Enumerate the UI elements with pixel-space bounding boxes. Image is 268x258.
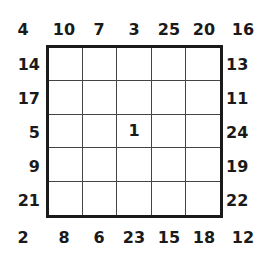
top-clue: 25	[152, 20, 186, 40]
grid-cell[interactable]	[117, 182, 151, 215]
grid-cell[interactable]	[186, 48, 220, 81]
bottom-clue: 23	[117, 228, 151, 248]
corner-clue-top-right: 16	[226, 20, 260, 40]
puzzle-grid: 1	[46, 45, 223, 218]
grid-cell[interactable]	[152, 182, 186, 215]
grid-cell[interactable]	[152, 81, 186, 114]
right-clue: 11	[226, 89, 256, 109]
grid-cell[interactable]	[49, 115, 83, 148]
grid-cell[interactable]	[83, 48, 117, 81]
bottom-clue: 15	[152, 228, 186, 248]
bottom-clue: 8	[47, 228, 81, 248]
corner-clue-bottom-left: 2	[6, 228, 40, 248]
grid-cell-given: 1	[117, 115, 151, 148]
grid-cell[interactable]	[117, 48, 151, 81]
grid-cell[interactable]	[83, 182, 117, 215]
grid-cell[interactable]	[83, 115, 117, 148]
grid-cell[interactable]	[49, 148, 83, 181]
top-clue: 3	[117, 20, 151, 40]
grid-cell[interactable]	[152, 48, 186, 81]
top-clue: 20	[187, 20, 221, 40]
grid-cell[interactable]	[152, 148, 186, 181]
grid-cell[interactable]	[186, 81, 220, 114]
grid-cell[interactable]	[186, 182, 220, 215]
left-clue: 14	[10, 55, 40, 75]
right-clue: 13	[226, 55, 256, 75]
left-clue: 9	[10, 157, 40, 177]
top-clue: 10	[47, 20, 81, 40]
left-clue: 5	[10, 123, 40, 143]
bottom-clue: 18	[187, 228, 221, 248]
left-clue: 17	[10, 89, 40, 109]
right-clue: 24	[226, 123, 256, 143]
right-clue: 22	[226, 191, 256, 211]
grid-cell[interactable]	[83, 81, 117, 114]
grid-cell[interactable]	[49, 81, 83, 114]
grid-cell[interactable]	[186, 148, 220, 181]
grid-cell[interactable]	[117, 148, 151, 181]
grid-cell[interactable]	[186, 115, 220, 148]
grid-cell[interactable]	[83, 148, 117, 181]
bottom-clue: 6	[82, 228, 116, 248]
corner-clue-bottom-right: 12	[226, 228, 260, 248]
grid-cell[interactable]	[117, 81, 151, 114]
grid-cell[interactable]	[49, 182, 83, 215]
left-clue: 21	[10, 191, 40, 211]
top-clue: 7	[82, 20, 116, 40]
grid-cell[interactable]	[49, 48, 83, 81]
right-clue: 19	[226, 157, 256, 177]
grid-cell[interactable]	[152, 115, 186, 148]
corner-clue-top-left: 4	[6, 20, 40, 40]
